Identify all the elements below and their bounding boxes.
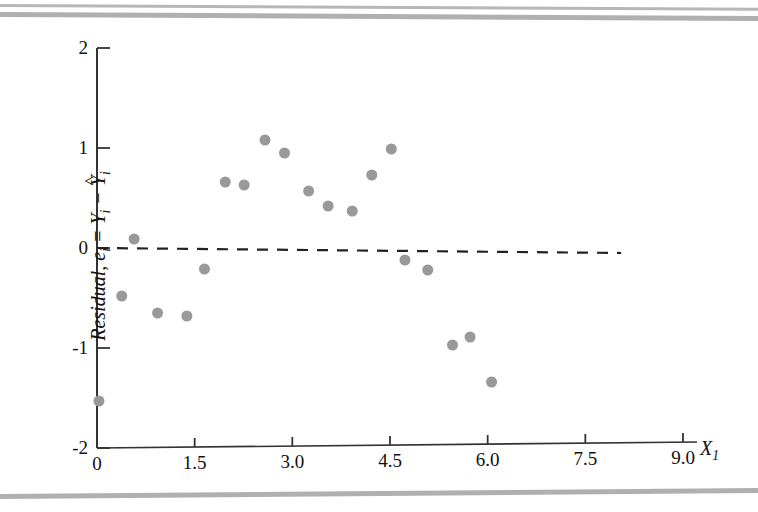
y-tick-label: -1 xyxy=(72,337,88,359)
x-axis-title: X1 xyxy=(700,437,719,464)
y-axis-title-text: Residual, ei = Yi − ^Yi xyxy=(87,171,109,340)
data-point xyxy=(116,291,127,302)
y-hat-group: ^Y xyxy=(87,175,110,186)
data-point xyxy=(465,332,476,343)
data-point xyxy=(181,311,192,322)
y-tick-label: 1 xyxy=(79,137,89,159)
y-tick-label: 2 xyxy=(79,37,89,59)
data-point xyxy=(220,177,231,188)
data-point xyxy=(399,255,410,266)
x-tick-label: 0 xyxy=(92,453,102,475)
hat-accent-icon: ^ xyxy=(82,176,99,185)
x-tick-label: 7.5 xyxy=(573,448,597,470)
y-tick-label: -2 xyxy=(72,437,88,459)
y-axis-sub-i2: i xyxy=(98,210,113,214)
data-point xyxy=(486,377,497,388)
data-point xyxy=(303,186,314,197)
residual-scatter-chart: 210-1-2 01.53.04.56.07.59.0 Residual, ei… xyxy=(0,0,758,512)
data-points xyxy=(93,135,497,407)
reference-line xyxy=(97,248,621,253)
data-point xyxy=(279,148,290,159)
y-axis-sub-i1: i xyxy=(98,248,113,252)
data-point xyxy=(129,234,140,245)
x-tick-label: 9.0 xyxy=(671,447,695,469)
x-tick-label: 4.5 xyxy=(378,450,402,472)
x-tick-label: 6.0 xyxy=(476,449,500,471)
x-tick-label: 3.0 xyxy=(280,451,304,473)
x-tick-label: 1.5 xyxy=(183,452,207,474)
data-point xyxy=(259,135,270,146)
zero-reference-line xyxy=(97,248,621,253)
data-point xyxy=(447,340,458,351)
data-point xyxy=(422,265,433,276)
x-axis-line xyxy=(97,442,697,448)
data-point xyxy=(386,144,397,155)
data-point xyxy=(199,264,210,275)
data-point xyxy=(152,308,163,319)
data-point xyxy=(239,180,250,191)
data-point xyxy=(347,206,358,217)
data-point xyxy=(366,170,377,181)
x-axis-subscript: 1 xyxy=(712,448,719,463)
data-point xyxy=(93,396,104,407)
data-point xyxy=(323,201,334,212)
y-axis-title: Residual, ei = Yi − ^Yi xyxy=(87,171,114,340)
